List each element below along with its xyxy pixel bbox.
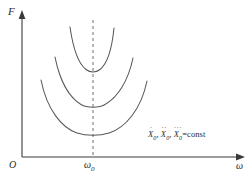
omega-symbol: ω	[84, 159, 91, 170]
annotation-term1-dots: ·	[148, 125, 154, 132]
x-axis-label: ω	[236, 161, 243, 171]
curve-middle	[55, 57, 133, 107]
annotation-equals-const: =const	[182, 129, 205, 139]
annotation-term3-sub: 0	[179, 135, 182, 141]
annotation-term-acceleration: ··X0	[161, 130, 169, 141]
annotation-term3-dots: ···	[174, 125, 180, 132]
resonance-curves-plot	[0, 0, 252, 182]
annotation-term2-dots: ··	[161, 125, 167, 132]
y-axis-label: F	[8, 6, 15, 17]
origin-label: O	[9, 160, 16, 170]
curve-inner	[70, 27, 114, 72]
constant-amplitude-annotation: ·X0, ··X0, ···X0=const	[148, 130, 205, 141]
omega-subscript: 0	[91, 165, 95, 173]
y-axis-arrowhead	[19, 10, 26, 19]
annotation-term-jerk: ···X0	[174, 130, 182, 141]
figure-container: F O ω ω0 ·X0, ··X0, ···X0=const	[0, 0, 252, 182]
resonance-frequency-tick-label: ω0	[84, 160, 95, 173]
annotation-term1-sub: 0	[153, 135, 156, 141]
annotation-term-velocity: ·X0	[148, 130, 156, 141]
annotation-term2-sub: 0	[166, 135, 169, 141]
